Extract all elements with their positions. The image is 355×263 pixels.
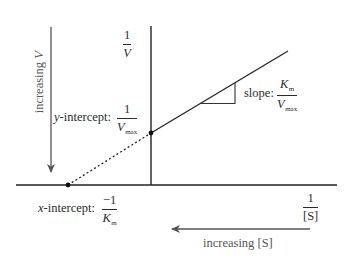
x-intercept-denominator-var: K bbox=[103, 211, 111, 225]
increasing-v-text: increasing bbox=[32, 59, 46, 114]
y-axis-label: 1 V bbox=[123, 29, 131, 59]
increasing-s-text: increasing [S] bbox=[203, 236, 273, 250]
x-intercept-text: -intercept: bbox=[44, 201, 95, 215]
slope-text: slope: bbox=[244, 86, 274, 100]
extrapolated-line bbox=[68, 133, 151, 185]
x-intercept-numerator: −1 bbox=[102, 194, 117, 209]
y-axis-label-denominator: V bbox=[123, 45, 131, 60]
slope-denominator-var: V bbox=[277, 97, 285, 111]
x-intercept-label: x-intercept: bbox=[38, 202, 95, 215]
x-axis-label-numerator: 1 bbox=[307, 192, 315, 207]
x-intercept-value: −1 Km bbox=[102, 194, 117, 227]
slope-numerator-sub: m bbox=[289, 85, 294, 93]
y-intercept-denominator-sub: max bbox=[125, 128, 137, 136]
x-intercept-denominator-sub: m bbox=[111, 219, 116, 227]
lineweaver-burk-plot bbox=[0, 0, 355, 263]
increasing-v-label: increasing V bbox=[33, 47, 46, 117]
y-intercept-denominator-var: V bbox=[117, 120, 125, 134]
x-axis-label-denominator: [S] bbox=[303, 208, 318, 223]
x-axis-label: 1 [S] bbox=[303, 192, 318, 222]
increasing-s-label: increasing [S] bbox=[203, 237, 273, 250]
y-intercept-value: 1 Vmax bbox=[117, 103, 137, 136]
y-intercept-numerator: 1 bbox=[123, 103, 131, 118]
increasing-v-var: V bbox=[32, 51, 46, 59]
y-intercept-text: -intercept: bbox=[60, 110, 111, 124]
y-axis-label-numerator: 1 bbox=[123, 29, 131, 44]
slope-label: slope: bbox=[244, 87, 274, 100]
slope-numerator-var: K bbox=[280, 77, 288, 91]
slope-denominator-sub: max bbox=[285, 105, 297, 113]
slope-value: Km Vmax bbox=[277, 78, 297, 113]
x-intercept-point bbox=[66, 183, 71, 188]
y-intercept-point bbox=[149, 131, 154, 136]
y-intercept-label: y-intercept: bbox=[54, 111, 111, 124]
